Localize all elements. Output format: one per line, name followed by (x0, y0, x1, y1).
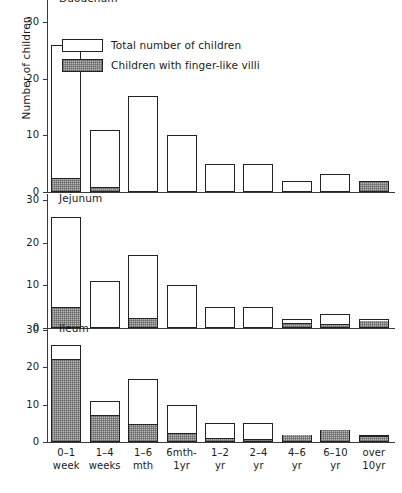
y-tick-label-10: 10 (17, 129, 39, 140)
x-tick-label-line: 1–4 (86, 447, 124, 460)
bar (205, 164, 235, 192)
bar-shaded-segment (168, 433, 196, 441)
y-tick-20 (43, 79, 47, 80)
y-axis-line (47, 0, 48, 192)
x-tick-label-line: yr (316, 460, 354, 473)
legend-swatch-total (62, 39, 103, 52)
bar (90, 130, 120, 192)
y-tick-label-30: 30 (17, 194, 39, 205)
bar (128, 379, 158, 442)
y-tick-30 (43, 200, 47, 201)
y-tick-10 (43, 405, 47, 406)
x-tick-label-line: 2–4 (239, 447, 277, 460)
bar (205, 423, 235, 442)
bar (243, 164, 273, 192)
bar (243, 423, 273, 442)
bar (167, 405, 197, 442)
bar (90, 281, 120, 328)
panel-title-ileum: Ileum (59, 322, 89, 334)
bar-shaded-segment (129, 424, 157, 441)
y-tick-20 (43, 367, 47, 368)
panel-title-jejunum: Jejunum (59, 192, 102, 204)
y-tick-label-20: 20 (17, 361, 39, 372)
x-tick-label: 6–10yr (316, 447, 354, 472)
y-tick-label-20: 20 (17, 237, 39, 248)
y-tick-label-0: 0 (17, 436, 39, 447)
bar (167, 135, 197, 192)
x-tick-label-line: 6–10 (316, 447, 354, 460)
bar (90, 401, 120, 442)
y-tick-label-30: 30 (17, 16, 39, 27)
bar-shaded-segment (244, 439, 272, 441)
y-tick-30 (43, 330, 47, 331)
y-axis-line (47, 324, 48, 442)
x-tick-label-line: mth (124, 460, 162, 473)
y-axis-line (47, 194, 48, 328)
x-tick-label-line: over (355, 447, 393, 460)
bar-shaded-segment (321, 430, 349, 441)
bar-shaded-segment (283, 435, 311, 441)
y-tick-10 (43, 285, 47, 286)
x-tick-label-line: 1–6 (124, 447, 162, 460)
bar (320, 174, 350, 192)
x-tick-label-line: yr (278, 460, 316, 473)
x-tick-label-line: 1yr (163, 460, 201, 473)
legend-label-total: Total number of children (111, 39, 241, 51)
figure: Number of children Duodenum0102030Jejunu… (0, 0, 402, 493)
x-tick-label-line: week (47, 460, 85, 473)
bar-shaded-segment (91, 415, 119, 441)
bar-shaded-segment (52, 359, 80, 441)
legend-swatch-finger-like (62, 59, 103, 72)
y-tick-30 (43, 22, 47, 23)
y-tick-0 (43, 192, 47, 193)
y-tick-label-10: 10 (17, 399, 39, 410)
panel-ileum: Ileum0102030 (47, 324, 395, 444)
bar (167, 285, 197, 328)
x-tick-label: 1–4weeks (86, 447, 124, 472)
legend-label-finger-like: Children with finger-like villi (111, 59, 260, 71)
y-tick-label-10: 10 (17, 279, 39, 290)
bar-shaded-segment (52, 178, 80, 191)
bar (320, 430, 350, 442)
bar (51, 345, 81, 442)
bar (282, 435, 312, 442)
x-tick-label-line: yr (201, 460, 239, 473)
x-tick-label-line: 1–2 (201, 447, 239, 460)
bar (51, 217, 81, 328)
y-tick-20 (43, 243, 47, 244)
x-tick-label-line: 6mth- (163, 447, 201, 460)
bar (359, 435, 389, 442)
x-tick-label: 4–6yr (278, 447, 316, 472)
bar (128, 255, 158, 328)
x-tick-label-line: 10yr (355, 460, 393, 473)
x-tick-label-line: weeks (86, 460, 124, 473)
bar (282, 181, 312, 192)
panel-duodenum: Duodenum0102030 (47, 0, 395, 194)
bar-shaded-segment (360, 436, 388, 441)
panel-title-duodenum: Duodenum (59, 0, 118, 4)
bar-shaded-segment (360, 182, 388, 191)
x-tick-label-line: 4–6 (278, 447, 316, 460)
x-axis-line (47, 442, 395, 443)
panel-jejunum: Jejunum0102030 (47, 194, 395, 330)
x-tick-label-line: yr (239, 460, 277, 473)
bar (128, 96, 158, 192)
bar-shaded-segment (91, 187, 119, 191)
x-tick-label: 2–4yr (239, 447, 277, 472)
x-tick-label: 0–1week (47, 447, 85, 472)
bar-shaded-segment (206, 438, 234, 441)
y-tick-label-20: 20 (17, 73, 39, 84)
x-tick-label: 1–6mth (124, 447, 162, 472)
y-tick-10 (43, 135, 47, 136)
x-tick-label: 1–2yr (201, 447, 239, 472)
x-axis-tick-labels: 0–1week1–4weeks1–6mth6mth-1yr1–2yr2–4yr4… (47, 447, 397, 491)
y-tick-0 (43, 442, 47, 443)
bar (359, 181, 389, 192)
x-tick-label: 6mth-1yr (163, 447, 201, 472)
x-tick-label-line: 0–1 (47, 447, 85, 460)
x-tick-label: over10yr (355, 447, 393, 472)
y-tick-label-30: 30 (17, 324, 39, 335)
